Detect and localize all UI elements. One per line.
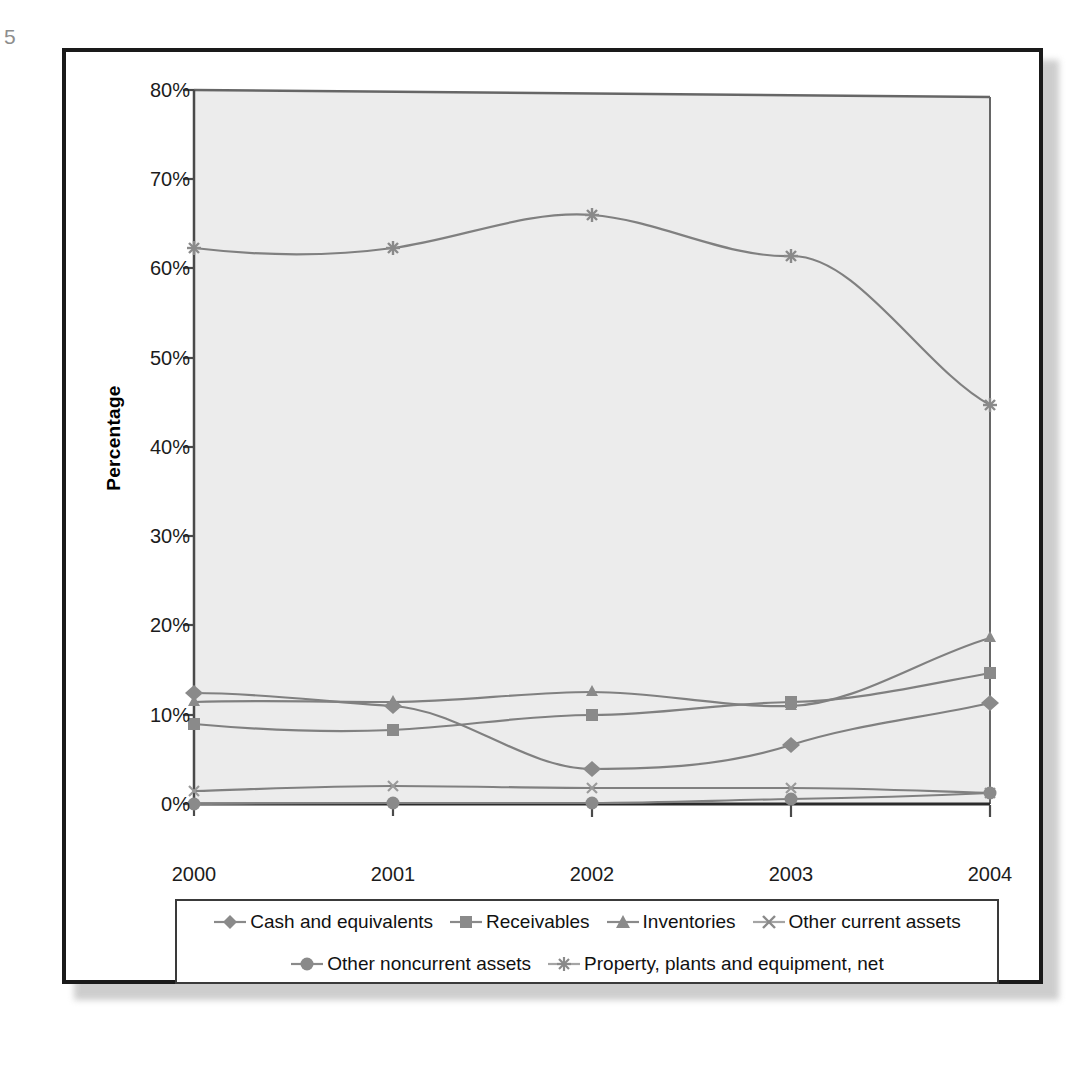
- x-tick-label-2004: 2004: [940, 863, 1040, 886]
- square-marker-icon: [449, 913, 483, 931]
- legend-item-receivables[interactable]: Receivables: [449, 911, 590, 933]
- chart-legend: Cash and equivalents Receivables Invento…: [175, 899, 999, 984]
- circle-marker-icon: [290, 955, 324, 973]
- line-chart: 80% 70% 60% 50% 40% 30% 20% 10% 0% Perce…: [66, 52, 1039, 980]
- legend-label: Property, plants and equipment, net: [584, 953, 884, 975]
- y-tick-label: 30%: [116, 525, 190, 548]
- legend-item-other-noncurrent-assets[interactable]: Other noncurrent assets: [290, 953, 531, 975]
- figure-frame: 80% 70% 60% 50% 40% 30% 20% 10% 0% Perce…: [62, 48, 1043, 984]
- chart-plot-svg: [66, 52, 1039, 980]
- y-tick-label: 60%: [116, 257, 190, 280]
- y-tick-label: 10%: [116, 704, 190, 727]
- x-tick-label-2003: 2003: [741, 863, 841, 886]
- legend-row-2: Other noncurrent assets Property, plants…: [177, 943, 997, 985]
- legend-item-cash-and-equivalents[interactable]: Cash and equivalents: [213, 911, 433, 933]
- legend-label: Other current assets: [789, 911, 961, 933]
- legend-label: Other noncurrent assets: [327, 953, 531, 975]
- legend-item-inventories[interactable]: Inventories: [606, 911, 736, 933]
- legend-label: Inventories: [643, 911, 736, 933]
- x-tick-label-2000: 2000: [144, 863, 244, 886]
- legend-item-property-plants-and-equipment-net[interactable]: Property, plants and equipment, net: [547, 953, 884, 975]
- x-tick-label-2001: 2001: [343, 863, 443, 886]
- y-tick-label: 80%: [116, 79, 190, 102]
- legend-item-other-current-assets[interactable]: Other current assets: [752, 911, 961, 933]
- y-tick-label: 70%: [116, 168, 190, 191]
- x-tick-label-2002: 2002: [542, 863, 642, 886]
- y-tick-label: 20%: [116, 614, 190, 637]
- page-number: 5: [4, 25, 16, 49]
- cross-marker-icon: [752, 913, 786, 931]
- legend-label: Cash and equivalents: [250, 911, 433, 933]
- triangle-marker-icon: [606, 913, 640, 931]
- y-axis-title: Percentage: [103, 343, 125, 533]
- y-tick-label: 40%: [116, 436, 190, 459]
- y-tick-label: 0%: [116, 793, 190, 816]
- plot-background: [194, 90, 990, 804]
- diamond-marker-icon: [213, 913, 247, 931]
- legend-label: Receivables: [486, 911, 590, 933]
- star-marker-icon: [547, 955, 581, 973]
- y-tick-label: 50%: [116, 347, 190, 370]
- legend-row-1: Cash and equivalents Receivables Invento…: [177, 901, 997, 943]
